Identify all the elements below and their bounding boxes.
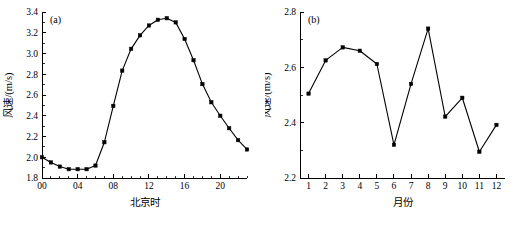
- data-point-marker: [156, 18, 159, 21]
- data-point-marker: [245, 148, 248, 151]
- data-point-marker: [49, 161, 52, 164]
- y-axis-title: 风速/(m/s): [3, 72, 15, 118]
- data-point-marker: [341, 46, 344, 49]
- data-point-marker: [478, 150, 481, 153]
- data-series-line: [309, 29, 497, 152]
- x-axis-tick-label: 12: [144, 181, 154, 191]
- data-point-marker: [210, 101, 213, 104]
- y-axis-tick-label: 2.8: [26, 70, 38, 80]
- data-point-marker: [392, 143, 395, 146]
- x-axis-tick-label: 8: [426, 181, 431, 191]
- data-point-marker: [94, 164, 97, 167]
- x-axis-tick-label: 2: [323, 181, 328, 191]
- data-point-marker: [236, 138, 239, 141]
- y-axis-tick-label: 2.6: [26, 90, 38, 100]
- data-point-marker: [426, 27, 429, 30]
- x-axis-title: 月份: [393, 197, 414, 208]
- data-point-marker: [227, 127, 230, 130]
- data-point-marker: [112, 104, 115, 107]
- x-axis-tick-label: 6: [392, 181, 397, 191]
- panel-tag-label: (a): [50, 14, 61, 26]
- data-point-marker: [461, 96, 464, 99]
- data-point-marker: [103, 141, 106, 144]
- chart-axes: [300, 12, 505, 178]
- chart-panel-b: 2.22.42.62.8123456789101112月份风速/(m/s)(b): [265, 0, 530, 227]
- data-point-marker: [358, 49, 361, 52]
- y-axis-tick-label: 3.2: [26, 28, 38, 38]
- x-axis-tick-label: 7: [409, 181, 414, 191]
- x-axis-tick-label: 9: [443, 181, 448, 191]
- y-axis-tick-label: 3.4: [26, 7, 38, 17]
- data-point-marker: [58, 165, 61, 168]
- x-axis-tick-label: 04: [73, 181, 83, 191]
- x-axis-tick-label: 16: [180, 181, 190, 191]
- y-axis-tick-label: 2.6: [284, 63, 296, 73]
- y-axis-tick-label: 2.2: [284, 173, 296, 183]
- data-point-marker: [444, 115, 447, 118]
- y-axis-tick-label: 2.2: [26, 132, 38, 142]
- data-point-marker: [183, 37, 186, 40]
- data-point-marker: [129, 47, 132, 50]
- chart-a-svg: 1.82.02.22.42.62.83.03.23.4000408121620北…: [0, 0, 265, 227]
- data-point-marker: [138, 34, 141, 37]
- data-point-marker: [174, 21, 177, 24]
- x-axis-tick-label: 10: [458, 181, 468, 191]
- x-axis-tick-label: 11: [475, 181, 484, 191]
- data-point-marker: [324, 59, 327, 62]
- x-axis-title: 北京时: [130, 196, 161, 208]
- x-axis-tick-label: 08: [109, 181, 119, 191]
- data-point-marker: [307, 92, 310, 95]
- x-axis-tick-label: 1: [306, 181, 311, 191]
- chart-panel-a: 1.82.02.22.42.62.83.03.23.4000408121620北…: [0, 0, 265, 227]
- x-axis-tick-label: 12: [492, 181, 502, 191]
- y-axis-tick-label: 2.4: [284, 118, 296, 128]
- x-axis-tick-label: 4: [357, 181, 362, 191]
- data-point-marker: [121, 69, 124, 72]
- y-axis-title: 风速/(m/s): [265, 72, 273, 118]
- data-point-marker: [409, 82, 412, 85]
- data-series-line: [42, 18, 247, 169]
- x-axis-tick-label: 5: [375, 181, 380, 191]
- data-point-marker: [219, 114, 222, 117]
- x-axis-tick-label: 00: [37, 181, 47, 191]
- data-point-marker: [375, 62, 378, 65]
- y-axis-tick-label: 2.8: [284, 7, 296, 17]
- data-point-marker: [85, 167, 88, 170]
- data-point-marker: [147, 24, 150, 27]
- data-point-marker: [40, 156, 43, 159]
- data-point-marker: [201, 82, 204, 85]
- data-point-marker: [192, 59, 195, 62]
- chart-b-svg: 2.22.42.62.8123456789101112月份风速/(m/s)(b): [265, 0, 530, 227]
- x-axis-tick-label: 3: [340, 181, 345, 191]
- panel-tag-label: (b): [308, 14, 320, 26]
- data-point-marker: [165, 17, 168, 20]
- data-point-marker: [495, 123, 498, 126]
- y-axis-tick-label: 2.0: [26, 153, 38, 163]
- data-point-marker: [67, 167, 70, 170]
- data-point-marker: [76, 167, 79, 170]
- y-axis-tick-label: 2.4: [26, 111, 38, 121]
- x-axis-tick-label: 20: [216, 181, 226, 191]
- wind-speed-figure: 1.82.02.22.42.62.83.03.23.4000408121620北…: [0, 0, 530, 227]
- y-axis-tick-label: 3.0: [26, 49, 38, 59]
- chart-axes: [42, 12, 247, 178]
